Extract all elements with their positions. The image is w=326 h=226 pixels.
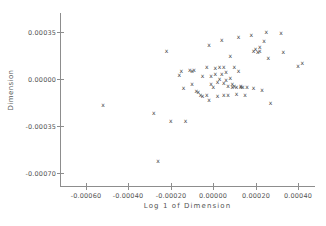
x-axis-title: Log 1 of Dimension [60,202,315,210]
scatter-plot: 0.00035 0.00000 -0.00035 -0.00070 -0.000… [0,0,326,226]
data-point-marker: x [222,92,226,98]
data-point-marker: x [169,118,173,124]
data-point-marker: x [260,87,264,93]
data-point-marker: x [222,64,226,70]
data-point-marker: x [218,76,222,82]
data-point-marker: x [239,84,243,90]
x-tick-mark [171,183,172,190]
data-point-marker: x [239,83,243,89]
data-point-marker: x [230,81,234,87]
data-point-marker: x [258,48,262,54]
data-point-marker: x [152,110,156,116]
x-tick-mark [86,183,87,190]
data-point-marker: x [233,64,237,70]
data-point-marker: x [216,93,220,99]
data-point-marker: x [256,49,260,55]
data-point-marker: x [237,68,241,74]
data-point-marker: x [197,89,201,95]
data-point-marker: x [214,65,218,71]
data-point-marker: x [269,100,273,106]
data-point-marker: x [237,34,241,40]
data-point-marker: x [194,88,198,94]
data-point-marker: x [156,158,160,164]
data-point-marker: x [101,102,105,108]
y-tick-label: 0.00035 [1,29,56,37]
data-point-marker: x [267,55,271,61]
y-tick-mark [57,79,64,80]
data-point-marker: x [211,84,215,90]
y-tick-mark [57,32,64,33]
y-axis-title: Dimension [7,55,15,125]
data-point-marker: x [233,83,237,89]
data-point-marker: x [300,60,304,66]
data-point-marker: x [254,46,258,52]
data-point-marker: x [205,92,209,98]
data-point-marker: x [165,48,169,54]
data-point-marker: x [220,37,224,43]
data-point-marker: x [262,38,266,44]
data-point-marker: x [220,71,224,77]
x-tick-mark [298,183,299,190]
data-point-marker: x [252,85,256,91]
data-point-marker: x [184,118,188,124]
data-point-marker: x [224,77,228,83]
data-point-marker: x [218,64,222,70]
data-point-marker: x [182,85,186,91]
data-point-marker: x [235,84,239,90]
data-point-marker: x [264,29,268,35]
x-tick-mark [128,183,129,190]
data-point-marker: x [177,72,181,78]
data-point-marker: x [235,91,239,97]
x-tick-label: 0.00040 [268,192,326,200]
x-tick-mark [213,183,214,190]
data-point-marker: x [216,79,220,85]
data-point-marker: x [222,80,226,86]
data-point-marker: x [214,71,218,77]
data-point-marker: x [192,67,196,73]
data-point-marker: x [209,81,213,87]
data-point-marker: x [199,92,203,98]
data-point-marker: x [241,84,245,90]
data-point-marker: x [252,48,256,54]
y-tick-mark [57,126,64,127]
data-point-marker: x [201,93,205,99]
data-point-marker: x [243,92,247,98]
data-point-marker: x [226,92,230,98]
data-point-marker: x [188,67,192,73]
data-point-marker: x [228,53,232,59]
data-point-marker: x [226,83,230,89]
data-point-marker: x [190,68,194,74]
data-point-marker: x [207,42,211,48]
data-point-marker: x [258,44,262,50]
y-tick-label: -0.00070 [1,170,56,178]
data-point-marker: x [190,81,194,87]
data-point-marker: x [279,30,283,36]
y-axis-line [60,13,61,186]
data-point-marker: x [296,63,300,69]
data-point-marker: x [250,32,254,38]
data-point-marker: x [228,75,232,81]
data-point-marker: x [230,84,234,90]
data-point-marker: x [207,97,211,103]
data-point-marker: x [245,84,249,90]
y-tick-mark [57,173,64,174]
data-point-marker: x [224,69,228,75]
x-tick-mark [256,183,257,190]
data-point-marker: x [201,73,205,79]
data-point-marker: x [180,68,184,74]
data-point-marker: x [281,49,285,55]
x-axis-line [60,186,315,187]
data-point-marker: x [205,64,209,70]
data-point-marker: x [209,73,213,79]
